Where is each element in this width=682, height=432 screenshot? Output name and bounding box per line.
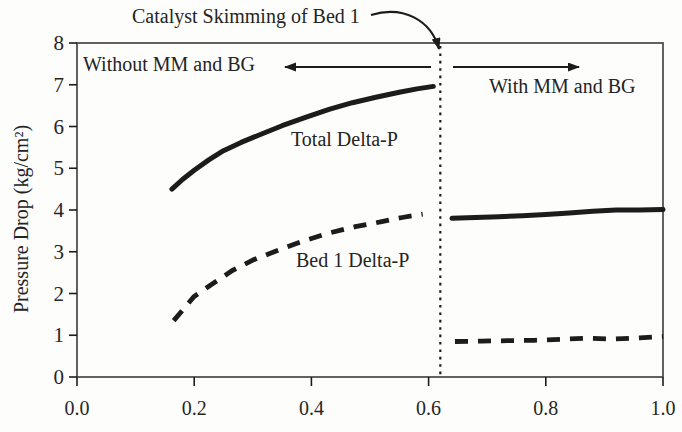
y-tick-label: 7 bbox=[54, 73, 65, 97]
y-axis-label: Pressure Drop (kg/cm²) bbox=[10, 125, 33, 313]
annotation-without-mm-bg: Without MM and BG bbox=[83, 53, 255, 76]
figure: 0123456780.00.20.40.60.81.0 Catalyst Ski… bbox=[0, 0, 682, 432]
y-tick-label: 8 bbox=[54, 31, 65, 55]
y-tick-label: 4 bbox=[54, 198, 65, 222]
y-tick-label: 0 bbox=[54, 365, 65, 389]
x-tick-label: 0.6 bbox=[416, 397, 441, 419]
series-label-total-delta-p: Total Delta-P bbox=[291, 128, 398, 151]
x-tick-label: 0.4 bbox=[299, 397, 324, 419]
y-tick-label: 1 bbox=[54, 323, 65, 347]
x-tick-label: 0.2 bbox=[182, 397, 207, 419]
annotation-with-mm-bg: With MM and BG bbox=[489, 75, 635, 98]
curve-bed-1-delta-p-after-skimming bbox=[455, 337, 663, 342]
x-tick-label: 1.0 bbox=[651, 397, 676, 419]
y-tick-label: 6 bbox=[54, 115, 65, 139]
annotation-catalyst-skimming: Catalyst Skimming of Bed 1 bbox=[132, 5, 360, 28]
y-tick-label: 3 bbox=[54, 240, 65, 264]
y-tick-label: 5 bbox=[54, 156, 65, 180]
y-tick-label: 2 bbox=[54, 282, 65, 306]
series-label-bed1-delta-p: Bed 1 Delta-P bbox=[296, 249, 409, 272]
x-tick-label: 0.0 bbox=[65, 397, 90, 419]
curve-total-delta-p-after-skimming bbox=[452, 210, 663, 219]
x-tick-label: 0.8 bbox=[533, 397, 558, 419]
